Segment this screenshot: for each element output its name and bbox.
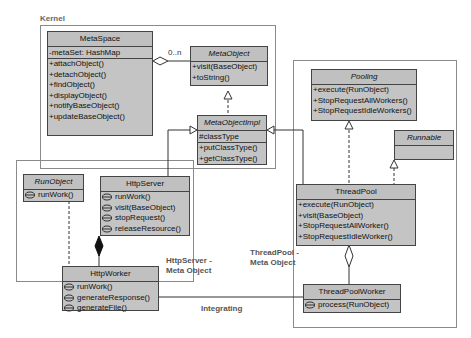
operation: stopRequest(): [102, 213, 188, 224]
realization-arrow-icon: [345, 121, 353, 129]
package-httpserver-label: HttpServer - Meta Object: [166, 256, 212, 276]
operation: runWork(): [64, 282, 157, 293]
class-attributes: #classType: [198, 131, 266, 143]
class-pooling[interactable]: Pooling +execute(RunObject) +StopRequest…: [311, 69, 417, 121]
class-runnable[interactable]: Runnable: [394, 130, 454, 160]
integrating-label: Integrating: [201, 304, 242, 314]
operation-label: runWork(): [77, 282, 112, 293]
package-httpserver-label-line2: Meta Object: [166, 266, 212, 276]
realization-arrow-icon: [224, 91, 232, 99]
operation-icon: [102, 193, 112, 201]
class-operations: +visit(BaseObject) +toString(): [191, 62, 267, 83]
class-name: HttpWorker: [63, 267, 158, 282]
operation: process(RunObject): [305, 300, 399, 311]
operation: releaseResource(): [102, 224, 188, 235]
class-metaspace[interactable]: MetaSpace -metaSet: HashMap +attachObjec…: [47, 31, 153, 136]
class-operations: runWork(): [24, 190, 83, 201]
class-operations: process(RunObject): [304, 300, 400, 311]
package-threadpool-label: ThreadPool - Meta Object: [250, 248, 299, 268]
operation: visit(BaseObject): [102, 203, 188, 214]
operation: generateFile(): [64, 303, 157, 314]
operation-label: runWork(): [38, 190, 73, 201]
operation: generateResponse(): [64, 293, 157, 304]
class-name: MetaObject: [191, 47, 267, 62]
class-operations: +putClassType() +getClassType(): [198, 143, 266, 164]
generalization-arrow-icon: [190, 126, 197, 134]
class-operations: +execute(RunObject) +visit(BaseObject) +…: [297, 200, 415, 242]
operation-label: generateResponse(): [77, 293, 150, 304]
class-operations: +execute(RunObject) +StopRequestAllWorke…: [312, 85, 416, 117]
class-name: ThreadPool: [297, 185, 415, 200]
operation: +visit(BaseObject): [298, 211, 414, 222]
class-threadpoolworker[interactable]: ThreadPoolWorker process(RunObject): [303, 284, 401, 313]
class-name: Runnable: [395, 131, 453, 146]
generalization-arrow-icon: [267, 126, 274, 134]
class-operations: +attachObject() +detachObject() +findObj…: [48, 59, 152, 122]
operation: +putClassType(): [199, 143, 265, 154]
operation-icon: [64, 304, 74, 312]
operation-icon: [64, 294, 74, 302]
class-threadpool[interactable]: ThreadPool +execute(RunObject) +visit(Ba…: [296, 184, 416, 246]
operation: +displayObject(): [49, 91, 151, 102]
operation: runWork(): [102, 192, 188, 203]
operation-label: visit(BaseObject): [115, 203, 175, 214]
operation-icon: [305, 301, 315, 309]
operation-icon: [102, 225, 112, 233]
operation-label: releaseResource(): [115, 224, 181, 235]
aggregation-diamond-icon: [153, 57, 168, 65]
class-operations: runWork() visit(BaseObject) stopRequest(…: [101, 192, 189, 234]
operation: runWork(): [25, 190, 82, 201]
operation: +StopRequestAllWorkers(): [313, 96, 415, 107]
class-metaobject[interactable]: MetaObject +visit(BaseObject) +toString(…: [190, 46, 268, 86]
class-name: RunObject: [24, 175, 83, 190]
attribute: #classType: [199, 131, 265, 142]
package-threadpool-label-line1: ThreadPool -: [250, 248, 299, 258]
operation: +StopRequestIdleWorker(): [298, 232, 414, 243]
operation: +execute(RunObject): [313, 85, 415, 96]
class-name: MetaSpace: [48, 32, 152, 47]
operation: +toString(): [192, 73, 266, 84]
class-name: MetaObjectImpl: [198, 116, 266, 131]
operation-label: runWork(): [115, 192, 150, 203]
operation-label: process(RunObject): [318, 300, 389, 311]
operation: +StopRequestAllWorker(): [298, 221, 414, 232]
class-name: Pooling: [312, 70, 416, 85]
realization-arrow-icon: [390, 160, 398, 168]
package-httpserver-label-line1: HttpServer -: [166, 256, 212, 266]
class-name: HttpServer: [101, 177, 189, 192]
operation-icon: [102, 214, 112, 222]
multiplicity-label: 0..n: [168, 48, 181, 58]
aggregation-diamond-icon: [345, 245, 353, 267]
operation: +attachObject(): [49, 59, 151, 70]
operation: +StopRequestIdleWorkers(): [313, 106, 415, 117]
class-httpserver[interactable]: HttpServer runWork() visit(BaseObject) s…: [100, 176, 190, 236]
operation-label: generateFile(): [77, 303, 127, 314]
class-runobject[interactable]: RunObject runWork(): [23, 174, 84, 202]
operation: +detachObject(): [49, 70, 151, 81]
operation: +findObject(): [49, 80, 151, 91]
class-httpworker[interactable]: HttpWorker runWork() generateResponse() …: [62, 266, 159, 311]
operation-icon: [102, 204, 112, 212]
class-name: ThreadPoolWorker: [304, 285, 400, 300]
operation: +updateBaseObject(): [49, 112, 151, 123]
class-metaobjectimpl[interactable]: MetaObjectImpl #classType +putClassType(…: [197, 115, 267, 165]
composition-diamond-icon: [95, 236, 103, 256]
package-threadpool-label-line2: Meta Object: [250, 258, 299, 268]
operation-icon: [64, 283, 74, 291]
operation-label: stopRequest(): [115, 213, 165, 224]
operation: +execute(RunObject): [298, 200, 414, 211]
attribute: -metaSet: HashMap: [49, 47, 151, 58]
class-operations: runWork() generateResponse() generateFil…: [63, 282, 158, 314]
class-attributes: -metaSet: HashMap: [48, 47, 152, 59]
operation: +getClassType(): [199, 154, 265, 165]
operation: +notifyBaseObject(): [49, 101, 151, 112]
operation: +visit(BaseObject): [192, 62, 266, 73]
operation-icon: [25, 191, 35, 199]
